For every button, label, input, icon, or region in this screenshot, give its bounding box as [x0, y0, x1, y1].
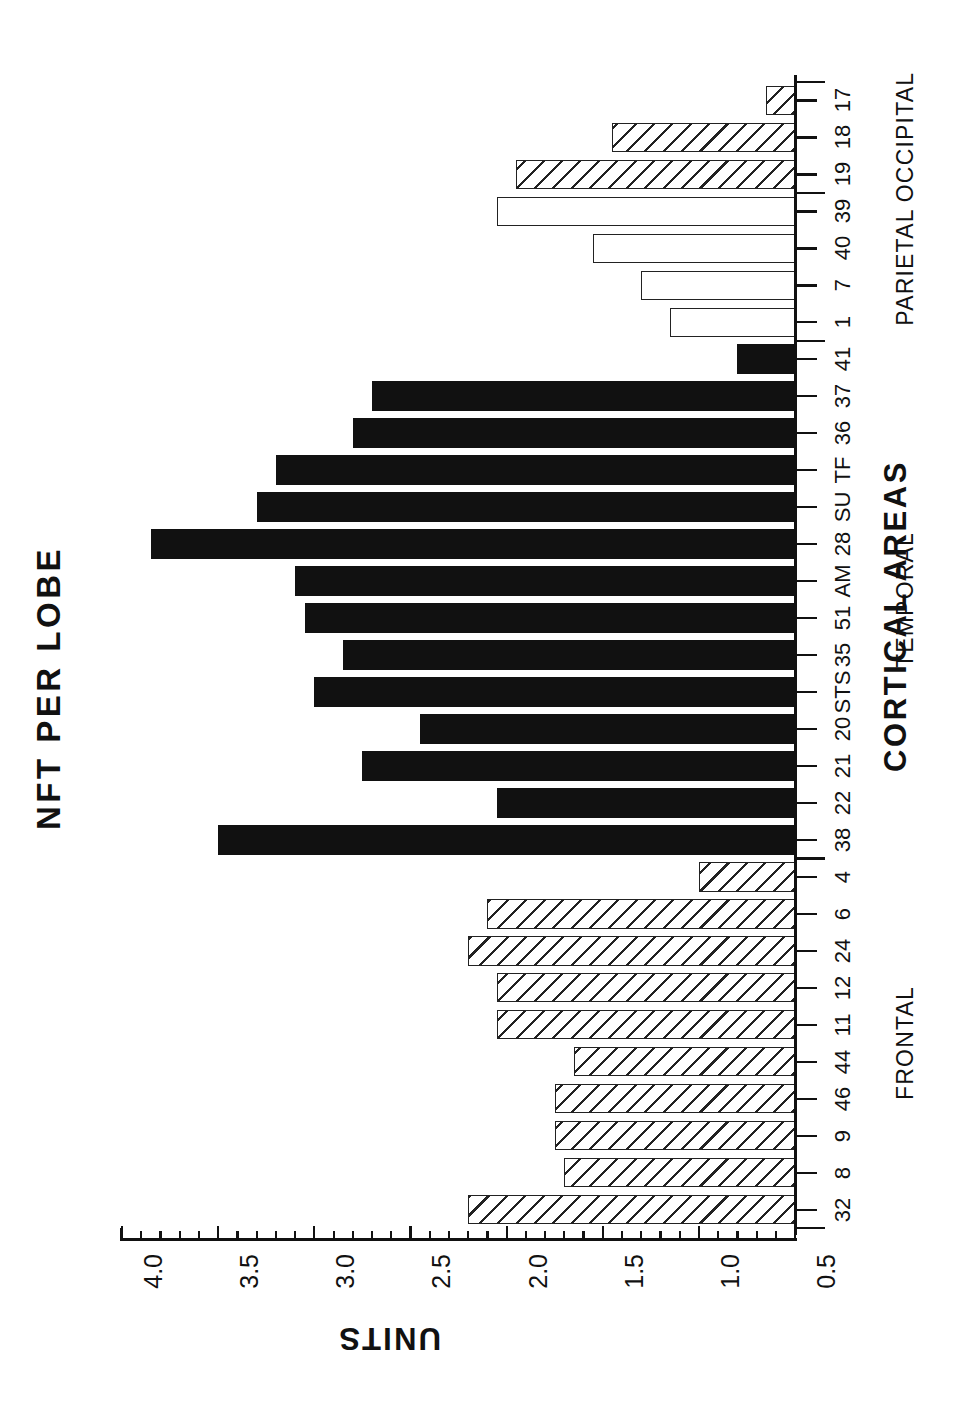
category-tick	[795, 765, 817, 767]
category-label-21: 21	[830, 754, 856, 778]
bar-row	[122, 418, 795, 448]
bar-4	[699, 862, 795, 892]
bar-row	[122, 862, 795, 892]
bar-36	[353, 418, 795, 448]
category-label-7: 7	[830, 279, 856, 291]
value-tick-minor	[659, 1231, 661, 1239]
category-label-am: AM	[830, 565, 856, 598]
value-tick-minor	[544, 1231, 546, 1239]
bar-40	[593, 234, 795, 264]
value-tick-minor	[159, 1231, 161, 1239]
bar-39	[497, 197, 795, 227]
value-axis-line	[120, 1238, 797, 1241]
bar-12	[497, 973, 795, 1003]
category-tick	[795, 210, 817, 212]
category-tick	[795, 395, 817, 397]
value-label-3.5: 3.5	[236, 1254, 265, 1289]
bar-7	[641, 271, 795, 301]
bar-row	[122, 344, 795, 374]
category-tick	[795, 284, 817, 286]
category-label-4: 4	[830, 871, 856, 883]
bar-46	[555, 1084, 795, 1114]
value-tick-minor	[352, 1231, 354, 1239]
bar-row	[122, 1195, 795, 1225]
bar-sts	[314, 677, 795, 707]
bar-32	[468, 1195, 795, 1225]
lobe-separator-tick	[795, 81, 825, 83]
page-title: NFT PER LOBE	[30, 470, 68, 830]
bar-37	[372, 381, 795, 411]
category-tick	[795, 247, 817, 249]
bar-row	[122, 603, 795, 633]
bar-row	[122, 271, 795, 301]
value-tick-minor	[582, 1231, 584, 1239]
category-label-1: 1	[830, 316, 856, 328]
category-label-46: 46	[830, 1086, 856, 1110]
category-tick	[795, 1024, 817, 1026]
bar-8	[564, 1158, 795, 1188]
value-tick-major	[602, 1226, 604, 1239]
value-tick-minor	[467, 1231, 469, 1239]
category-label-11: 11	[830, 1013, 856, 1036]
bar-41	[737, 344, 795, 374]
category-label-12: 12	[830, 975, 856, 999]
bar-row	[122, 788, 795, 818]
bar-row	[122, 973, 795, 1003]
bar-tf	[276, 455, 795, 485]
category-label-9: 9	[830, 1129, 856, 1141]
category-tick	[795, 580, 817, 582]
category-label-37: 37	[830, 384, 856, 408]
chart-figure: NFT PER LOBE CORTICAL AREAS UNITS 328946…	[0, 0, 967, 1425]
bar-su	[257, 492, 795, 522]
bar-row	[122, 1084, 795, 1114]
category-tick	[795, 913, 817, 915]
value-tick-major	[794, 1226, 796, 1239]
lobe-separator-tick	[795, 1227, 825, 1229]
value-tick-minor	[717, 1231, 719, 1239]
category-label-28: 28	[830, 532, 856, 556]
category-label-51: 51	[830, 606, 856, 630]
category-tick	[795, 1209, 817, 1211]
bar-row	[122, 1158, 795, 1188]
category-label-17: 17	[830, 88, 856, 112]
value-tick-minor	[179, 1231, 181, 1239]
lobe-separator-tick	[795, 192, 825, 194]
value-tick-minor	[140, 1231, 142, 1239]
bar-28	[151, 529, 795, 559]
bar-row	[122, 308, 795, 338]
category-tick	[795, 1061, 817, 1063]
value-tick-major	[217, 1226, 219, 1239]
category-tick	[795, 691, 817, 693]
bar-am	[295, 566, 795, 596]
plot-area	[122, 82, 795, 1228]
bar-row	[122, 1047, 795, 1077]
category-tick	[795, 802, 817, 804]
category-label-22: 22	[830, 791, 856, 815]
bar-row	[122, 86, 795, 116]
value-label-0.5: 0.5	[812, 1254, 841, 1289]
bar-24	[468, 936, 795, 966]
value-tick-major	[698, 1226, 700, 1239]
category-tick	[795, 99, 817, 101]
category-label-20: 20	[830, 717, 856, 741]
bar-1	[670, 308, 795, 338]
category-tick	[795, 950, 817, 952]
bar-21	[362, 751, 795, 781]
bar-row	[122, 640, 795, 670]
bar-6	[487, 899, 795, 929]
category-tick	[795, 728, 817, 730]
category-tick	[795, 1172, 817, 1174]
category-label-40: 40	[830, 236, 856, 260]
value-tick-minor	[275, 1231, 277, 1239]
value-tick-minor	[736, 1231, 738, 1239]
category-label-41: 41	[830, 347, 856, 371]
category-tick	[795, 654, 817, 656]
category-tick	[795, 173, 817, 175]
bar-row	[122, 123, 795, 153]
value-tick-minor	[429, 1231, 431, 1239]
value-tick-minor	[486, 1231, 488, 1239]
bar-row	[122, 1010, 795, 1040]
category-tick	[795, 469, 817, 471]
value-tick-minor	[640, 1231, 642, 1239]
category-tick	[795, 136, 817, 138]
